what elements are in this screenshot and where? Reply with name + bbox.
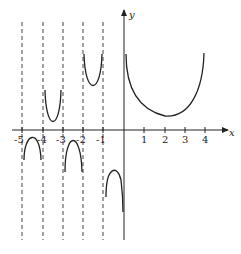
curves	[24, 53, 204, 212]
tick-label: 3	[182, 134, 188, 145]
tick-label: 1	[141, 134, 147, 145]
tick-label: 2	[162, 134, 168, 145]
branch-positive	[126, 53, 204, 116]
branch-neg4-neg3	[45, 90, 61, 122]
y-axis-label: y	[128, 9, 135, 20]
branch-neg2-neg1	[84, 54, 102, 86]
axes	[12, 10, 228, 240]
branch-neg3-neg2	[65, 141, 82, 173]
tick-label: -3	[56, 134, 66, 145]
function-graph: x y -5 -4 -3 -2 -1 1 2 3 4	[0, 0, 241, 254]
tick-label: -1	[96, 134, 106, 145]
x-tick-labels: -5 -4 -3 -2 -1 1 2 3 4	[14, 134, 208, 145]
branch-neg1-0	[106, 170, 123, 212]
tick-label: 4	[202, 134, 208, 145]
x-axis-label: x	[229, 127, 235, 138]
tick-label: -5	[14, 134, 24, 145]
